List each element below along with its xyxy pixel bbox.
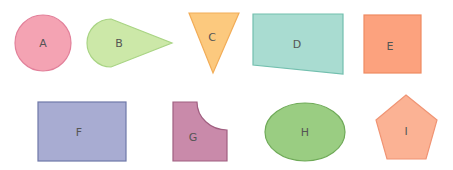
shape-d-label: D xyxy=(293,38,301,51)
shape-a-label: A xyxy=(39,37,47,50)
shape-h-label: H xyxy=(301,126,309,139)
shape-h: H xyxy=(265,103,345,161)
shape-d: D xyxy=(253,14,343,74)
shape-i-label: I xyxy=(404,125,407,138)
shape-a: A xyxy=(15,15,71,71)
shape-b-label: B xyxy=(115,37,123,50)
shapes-canvas: A B C D E F G H I xyxy=(0,0,453,170)
shape-g-label: G xyxy=(189,131,198,144)
shape-f-label: F xyxy=(76,126,82,139)
shape-e: E xyxy=(364,15,421,73)
shape-c-label: C xyxy=(208,31,216,44)
shape-c: C xyxy=(189,13,239,73)
shape-b: B xyxy=(87,19,172,67)
shape-i: I xyxy=(376,95,437,159)
shape-e-label: E xyxy=(387,40,394,53)
shape-f: F xyxy=(38,102,126,161)
shape-g: G xyxy=(173,102,227,161)
